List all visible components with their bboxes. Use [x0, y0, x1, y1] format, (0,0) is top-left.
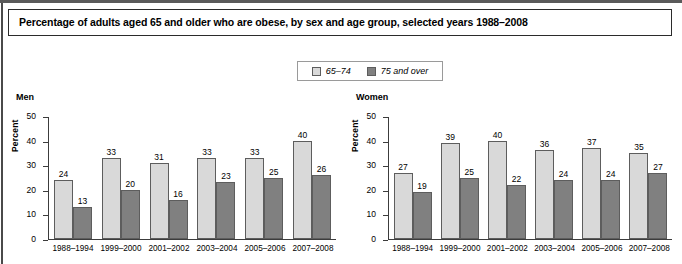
y-tick-men-40: 40: [43, 142, 48, 143]
bar-value-label: 24: [59, 169, 68, 179]
legend-label-75-and-over: 75 and over: [381, 66, 429, 76]
x-axis-label: 2005–2006: [241, 244, 289, 253]
bar: 40: [488, 141, 507, 239]
y-tick-women-20: 20: [383, 191, 388, 192]
bar-value-label: 26: [317, 164, 326, 174]
bar-value-label: 22: [512, 174, 521, 184]
y-tick-women-10: 10: [383, 215, 388, 216]
bar-value-label: 16: [173, 189, 182, 199]
y-tick-label-men-40: 40: [27, 136, 36, 146]
bar: 27: [394, 173, 413, 239]
bar-value-label: 40: [298, 130, 307, 140]
bar-value-label: 36: [540, 139, 549, 149]
panel-title-women: Women: [356, 92, 388, 102]
bar-value-label: 27: [398, 162, 407, 172]
y-tick-women-40: 40: [383, 142, 388, 143]
bar-group: 3116: [145, 117, 193, 239]
bar: 33: [102, 158, 121, 239]
page-left-rule: [1, 3, 3, 264]
y-tick-men-50: 50: [43, 117, 48, 118]
x-axis-label: 1999–2000: [436, 244, 483, 253]
bar: 24: [601, 180, 620, 239]
y-tick-label-women-50: 50: [367, 111, 376, 121]
y-tick-women-30: 30: [383, 166, 388, 167]
x-axis-label: 1988–1994: [49, 244, 97, 253]
bar: 25: [264, 178, 283, 240]
bar-value-label: 40: [493, 130, 502, 140]
plot-area-women: 50403020100 271939254022362437243527: [388, 117, 672, 240]
bar-value-label: 25: [269, 167, 278, 177]
bar: 35: [629, 153, 648, 239]
bar-value-label: 13: [78, 196, 87, 206]
legend-item-65-74: 65–74: [312, 66, 351, 76]
x-axis-label: 2001–2002: [145, 244, 193, 253]
y-tick-men-20: 20: [43, 191, 48, 192]
x-axis-label: 2001–2002: [484, 244, 531, 253]
bar-value-label: 19: [417, 181, 426, 191]
bar-value-label: 20: [126, 179, 135, 189]
bar-value-label: 35: [634, 142, 643, 152]
y-tick-label-men-0: 0: [31, 234, 36, 244]
chart-panel-men: Men Percent 50403020100 2413332031163323…: [8, 90, 342, 264]
y-tick-men-0: 0: [43, 240, 48, 241]
x-axis-label: 2007–2008: [289, 244, 337, 253]
bar-value-label: 39: [446, 132, 455, 142]
y-tick-label-men-50: 50: [27, 111, 36, 121]
y-tick-men-10: 10: [43, 215, 48, 216]
y-tick-women-50: 50: [383, 117, 388, 118]
x-axis-label: 2007–2008: [626, 244, 673, 253]
bar: 13: [73, 207, 92, 239]
page-title: Percentage of adults aged 65 and older w…: [19, 16, 528, 28]
bar-group: 4022: [483, 117, 530, 239]
y-tick-label-women-30: 30: [367, 160, 376, 170]
bar-group: 3624: [531, 117, 578, 239]
chart-legend: 65–74 75 and over: [297, 61, 443, 81]
legend-label-65-74: 65–74: [326, 66, 351, 76]
bar: 25: [460, 178, 479, 240]
bar-value-label: 24: [559, 169, 568, 179]
bar: 37: [582, 148, 601, 239]
x-axis-labels-women: 1988–19941999–20002001–20022003–20042005…: [389, 244, 673, 253]
x-axis-label: 2003–2004: [531, 244, 578, 253]
page-top-rule: [0, 0, 682, 3]
bar-value-label: 27: [653, 162, 662, 172]
y-tick-label-men-30: 30: [27, 160, 36, 170]
bar: 24: [54, 180, 73, 239]
bar-value-label: 37: [587, 137, 596, 147]
bar-value-label: 33: [107, 147, 116, 157]
legend-swatch-icon-75-and-over: [367, 67, 376, 76]
y-tick-label-women-40: 40: [367, 136, 376, 146]
x-axis-line-women: [388, 239, 672, 240]
y-axis-title-men: Percent: [10, 119, 20, 152]
title-box: Percentage of adults aged 65 and older w…: [8, 9, 672, 36]
bar-group: 3527: [625, 117, 672, 239]
x-axis-label: 1988–1994: [389, 244, 436, 253]
bar: 16: [169, 200, 188, 239]
bar-value-label: 23: [221, 171, 230, 181]
bar: 22: [507, 185, 526, 239]
bar: 33: [197, 158, 216, 239]
bar: 20: [121, 190, 140, 239]
bar-value-label: 24: [606, 169, 615, 179]
bar: 33: [245, 158, 264, 239]
bar-value-label: 25: [465, 167, 474, 177]
chart-panel-women: Women Percent 50403020100 27193925402236…: [348, 90, 678, 264]
x-axis-labels-men: 1988–19941999–20002001–20022003–20042005…: [49, 244, 337, 253]
bar-group: 2719: [389, 117, 436, 239]
bar-group: 3325: [240, 117, 288, 239]
bar: 36: [535, 150, 554, 239]
y-tick-label-women-10: 10: [367, 209, 376, 219]
bar: 31: [150, 163, 169, 239]
y-tick-men-30: 30: [43, 166, 48, 167]
bar-groups-men: 241333203116332333254026: [49, 117, 336, 239]
bar: 40: [293, 141, 312, 239]
plot-area-men: 50403020100 241333203116332333254026: [48, 117, 336, 240]
y-tick-label-men-20: 20: [27, 185, 36, 195]
bar-value-label: 33: [250, 147, 259, 157]
bar-value-label: 33: [202, 147, 211, 157]
bar-group: 3925: [436, 117, 483, 239]
bar-group: 2413: [49, 117, 97, 239]
legend-item-75-and-over: 75 and over: [367, 66, 429, 76]
y-axis-title-women: Percent: [350, 119, 360, 152]
x-axis-label: 1999–2000: [97, 244, 145, 253]
